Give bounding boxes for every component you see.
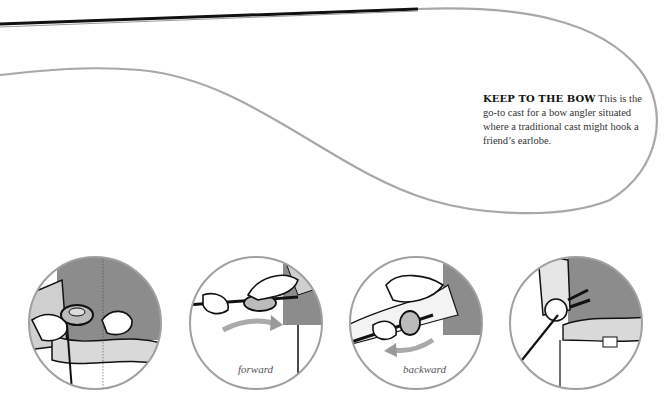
panel-4-rod-raised bbox=[508, 255, 644, 391]
fishing-rod bbox=[0, 9, 418, 24]
caption-heading: KEEP TO THE BOW bbox=[483, 93, 596, 104]
caption: KEEP TO THE BOW This is the go-to cast f… bbox=[483, 92, 658, 148]
panel-3-backward: backward bbox=[348, 255, 484, 391]
panel-2-forward: forward bbox=[188, 255, 324, 391]
backward-label-svg: backward bbox=[403, 363, 446, 375]
panel-1-hands-on-reel bbox=[27, 255, 163, 391]
forward-label-svg: forward bbox=[238, 363, 274, 375]
